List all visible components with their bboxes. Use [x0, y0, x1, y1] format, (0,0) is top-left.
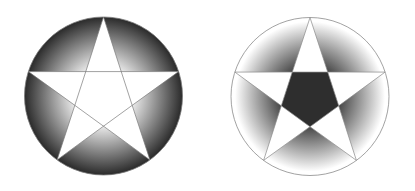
- left-pentagram: [25, 17, 183, 175]
- pentagram-figure: [0, 0, 415, 191]
- right-pentagram: [231, 18, 389, 176]
